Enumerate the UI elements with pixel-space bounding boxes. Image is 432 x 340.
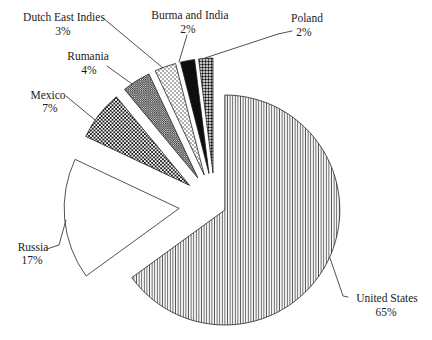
leader-line-russia [47, 220, 66, 249]
label-russia-pct: 17% [21, 254, 43, 266]
label-united-states: United States [356, 292, 418, 304]
label-mexico-pct: 7% [42, 102, 58, 114]
label-dutch-east-indies-pct: 3% [55, 25, 71, 37]
label-burma-and-india-pct: 2% [180, 23, 196, 35]
leader-line-burma-and-india [179, 35, 187, 62]
leader-line-dutch-east-indies [103, 18, 163, 68]
label-united-states-pct: 65% [375, 306, 397, 318]
label-poland-pct: 2% [296, 26, 312, 38]
leader-line-rumania [107, 66, 132, 84]
label-rumania-pct: 4% [81, 64, 97, 76]
label-mexico: Mexico [30, 89, 65, 101]
pie-slices [64, 58, 340, 325]
label-burma-and-india: Burma and India [151, 9, 228, 21]
pie-chart-canvas: Dutch East Indies 3% Burma and India 2% … [0, 0, 432, 340]
leader-line-poland [205, 31, 292, 58]
label-rumania: Rumania [67, 50, 109, 62]
label-poland: Poland [291, 12, 323, 24]
leader-line-mexico [66, 96, 95, 120]
label-russia: Russia [18, 241, 49, 253]
leader-line-united-states [330, 258, 348, 297]
pie-chart-figure: Dutch East Indies 3% Burma and India 2% … [0, 0, 432, 340]
label-dutch-east-indies: Dutch East Indies [23, 11, 105, 23]
